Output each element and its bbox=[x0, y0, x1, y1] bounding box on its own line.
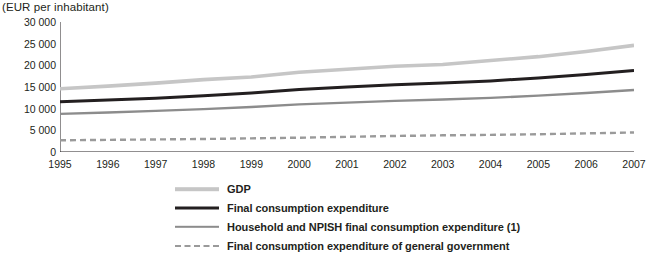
x-tick-label: 1995 bbox=[48, 158, 71, 170]
x-tick-label: 2001 bbox=[335, 158, 358, 170]
y-tick-label: 5 000 bbox=[30, 124, 56, 136]
y-tick-label: 15 000 bbox=[24, 81, 56, 93]
legend-swatch-icon bbox=[175, 220, 219, 234]
chart-container: (EUR per inhabitant) 05 00010 00015 0002… bbox=[0, 0, 650, 254]
chart-svg bbox=[60, 22, 634, 152]
legend-swatch-icon bbox=[175, 201, 219, 215]
y-axis-tick-labels: 05 00010 00015 00020 00025 00030 000 bbox=[0, 22, 56, 152]
legend-item: GDP bbox=[175, 180, 645, 198]
legend-label: Final consumption expenditure of general… bbox=[227, 240, 509, 252]
legend-swatch-icon bbox=[175, 239, 219, 253]
y-axis-unit-label: (EUR per inhabitant) bbox=[2, 1, 109, 13]
series-line-3 bbox=[60, 133, 634, 141]
x-tick-label: 2004 bbox=[479, 158, 502, 170]
x-tick-label: 2006 bbox=[574, 158, 597, 170]
legend-label: GDP bbox=[227, 183, 251, 195]
series-line-0 bbox=[60, 45, 634, 88]
plot-area bbox=[60, 22, 634, 152]
x-axis-tick-labels: 1995199619971998199920002001200220032004… bbox=[60, 158, 634, 174]
x-tick-label: 2007 bbox=[622, 158, 645, 170]
legend-item: Final consumption expenditure bbox=[175, 199, 645, 217]
x-tick-label: 2002 bbox=[383, 158, 406, 170]
legend-label: Household and NPISH final consumption ex… bbox=[227, 221, 520, 233]
x-tick-label: 1996 bbox=[96, 158, 119, 170]
legend-label: Final consumption expenditure bbox=[227, 202, 389, 214]
legend-item: Household and NPISH final consumption ex… bbox=[175, 218, 645, 236]
y-tick-label: 0 bbox=[50, 146, 56, 158]
y-tick-label: 30 000 bbox=[24, 16, 56, 28]
y-tick-label: 10 000 bbox=[24, 103, 56, 115]
series-line-1 bbox=[60, 71, 634, 102]
legend-swatch-icon bbox=[175, 182, 219, 196]
x-tick-label: 1997 bbox=[144, 158, 167, 170]
y-tick-label: 20 000 bbox=[24, 59, 56, 71]
x-tick-label: 2003 bbox=[431, 158, 454, 170]
x-tick-label: 2005 bbox=[527, 158, 550, 170]
x-tick-label: 1999 bbox=[240, 158, 263, 170]
x-tick-label: 2000 bbox=[287, 158, 310, 170]
series-line-2 bbox=[60, 90, 634, 114]
chart-legend: GDPFinal consumption expenditureHousehol… bbox=[175, 180, 645, 254]
x-tick-label: 1998 bbox=[192, 158, 215, 170]
legend-item: Final consumption expenditure of general… bbox=[175, 237, 645, 254]
y-tick-label: 25 000 bbox=[24, 38, 56, 50]
